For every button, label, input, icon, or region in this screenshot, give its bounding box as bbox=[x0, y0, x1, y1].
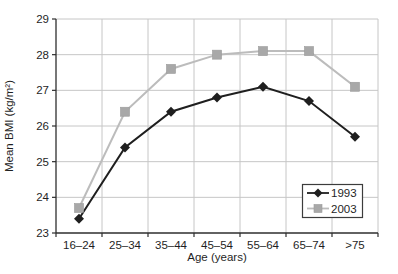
bmi-age-chart-figure: 2324252627282916–2425–3435–4445–5455–646… bbox=[0, 0, 398, 274]
data-point-square bbox=[213, 50, 222, 59]
y-tick-label: 29 bbox=[36, 13, 49, 25]
y-axis-title: Mean BMI (kg/m²) bbox=[3, 80, 15, 172]
y-tick-label: 28 bbox=[36, 49, 49, 61]
data-point-square bbox=[305, 47, 314, 56]
x-axis-title: Age (years) bbox=[187, 251, 247, 263]
x-tick-label: 55–64 bbox=[247, 239, 280, 251]
square-marker-icon bbox=[314, 205, 322, 213]
bmi-line-chart: 2324252627282916–2425–3435–4445–5455–646… bbox=[0, 0, 398, 274]
data-point-square bbox=[167, 64, 176, 73]
legend: 1993 2003 bbox=[303, 185, 363, 218]
y-tick-label: 25 bbox=[36, 156, 49, 168]
y-tick-label: 27 bbox=[36, 84, 49, 96]
x-tick-label: 35–44 bbox=[155, 239, 188, 251]
data-point-square bbox=[259, 47, 268, 56]
x-tick-label: >75 bbox=[345, 239, 365, 251]
data-point-diamond bbox=[212, 92, 222, 102]
x-tick-label: 65–74 bbox=[293, 239, 326, 251]
data-point-square bbox=[121, 107, 130, 116]
y-tick-label: 23 bbox=[36, 227, 49, 239]
legend-label-2003: 2003 bbox=[331, 203, 357, 215]
y-tick-label: 24 bbox=[36, 191, 49, 203]
legend-label-1993: 1993 bbox=[331, 187, 357, 199]
data-point-diamond bbox=[74, 214, 84, 224]
x-tick-label: 25–34 bbox=[109, 239, 142, 251]
x-tick-label: 16–24 bbox=[63, 239, 96, 251]
data-point-square bbox=[351, 82, 360, 91]
y-tick-label: 26 bbox=[36, 120, 49, 132]
x-tick-label: 45–54 bbox=[201, 239, 234, 251]
legend-entry-2003: 2003 bbox=[307, 203, 357, 215]
data-point-square bbox=[75, 204, 84, 213]
